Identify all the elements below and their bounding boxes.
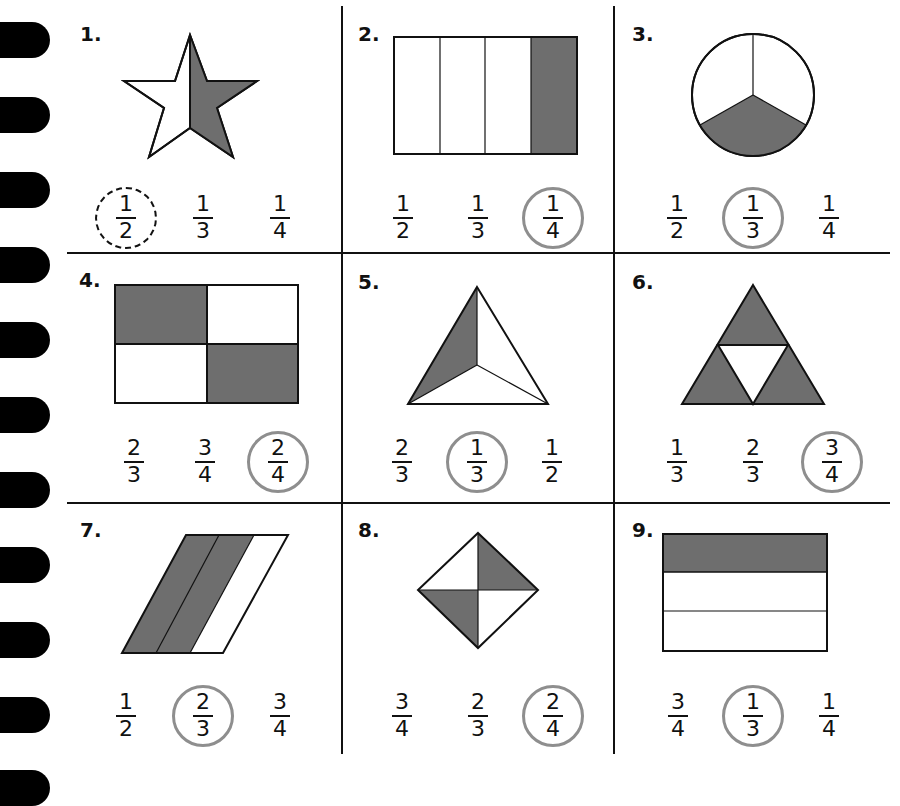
choice-8a[interactable]: 34 (382, 691, 422, 740)
choice-7b[interactable]: 23 (183, 691, 223, 740)
choice-2c[interactable]: 14 (533, 193, 573, 242)
choice-4c[interactable]: 24 (258, 437, 298, 486)
choice-5c[interactable]: 12 (532, 437, 572, 486)
star-shape (124, 35, 257, 157)
parallelogram-3-strips-shape (122, 535, 288, 653)
choice-2a[interactable]: 12 (383, 193, 423, 242)
choice-4a[interactable]: 23 (114, 437, 154, 486)
problem-number-5: 5. (358, 270, 380, 294)
problem-number-4: 4. (79, 268, 101, 292)
circle-3-sectors-shape (692, 34, 814, 156)
triangle-4-parts-shape (682, 285, 824, 404)
choice-6a[interactable]: 13 (657, 437, 697, 486)
choice-1b[interactable]: 13 (183, 193, 223, 242)
problem-number-2: 2. (358, 22, 380, 46)
choice-9b[interactable]: 13 (733, 691, 773, 740)
choice-1c[interactable]: 14 (260, 193, 300, 242)
choice-7c[interactable]: 34 (260, 691, 300, 740)
choice-9c[interactable]: 14 (809, 691, 849, 740)
rectangle-2x2-shape (115, 285, 298, 403)
choice-7a[interactable]: 12 (106, 691, 146, 740)
choice-8c[interactable]: 24 (533, 691, 573, 740)
rectangle-4-columns-shape (394, 37, 577, 154)
problem-number-1: 1. (80, 22, 102, 46)
problem-number-6: 6. (632, 270, 654, 294)
choice-2b[interactable]: 13 (458, 193, 498, 242)
choice-5a[interactable]: 23 (382, 437, 422, 486)
rectangle-3-rows-shape (663, 534, 827, 651)
choice-3b[interactable]: 13 (733, 193, 773, 242)
choice-1a[interactable]: 12 (106, 193, 146, 242)
problem-number-9: 9. (632, 518, 654, 542)
choice-3a[interactable]: 12 (657, 193, 697, 242)
choice-8b[interactable]: 23 (458, 691, 498, 740)
problem-number-8: 8. (358, 518, 380, 542)
problem-number-7: 7. (80, 518, 102, 542)
problem-number-3: 3. (632, 22, 654, 46)
choice-3c[interactable]: 14 (809, 193, 849, 242)
choice-5b[interactable]: 13 (457, 437, 497, 486)
choice-6c[interactable]: 34 (812, 437, 852, 486)
diamond-4-parts-shape (418, 533, 538, 648)
choice-4b[interactable]: 34 (185, 437, 225, 486)
choice-9a[interactable]: 34 (658, 691, 698, 740)
triangle-3-parts-shape (408, 287, 548, 404)
choice-6b[interactable]: 23 (733, 437, 773, 486)
